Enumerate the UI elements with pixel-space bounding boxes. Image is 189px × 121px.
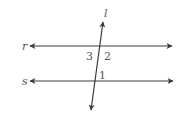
diagram-canvas: r s l 3 2 1 xyxy=(0,0,189,121)
angle-label-2: 2 xyxy=(104,50,111,63)
label-line-r: r xyxy=(22,40,28,53)
label-line-s: s xyxy=(22,75,28,88)
angle-label-1: 1 xyxy=(99,69,106,82)
angle-label-3: 3 xyxy=(86,50,93,63)
transversal-line-l xyxy=(91,22,103,110)
label-line-l: l xyxy=(104,7,108,20)
